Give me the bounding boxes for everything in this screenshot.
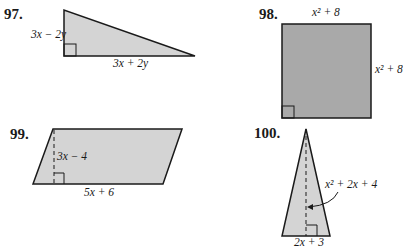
height-label-99: 3x − 4 [57, 150, 87, 162]
problem-number-100: 100. [254, 125, 280, 142]
right-triangle-97 [64, 10, 195, 56]
base-label-100: 2x + 3 [294, 236, 324, 248]
base-label-99: 5x + 6 [84, 186, 114, 198]
parallelogram-99 [33, 129, 182, 184]
problem-number-98: 98. [259, 6, 278, 23]
square-98 [282, 24, 371, 118]
problem-number-97: 97. [4, 6, 23, 23]
base-label-97: 3x + 2y [113, 57, 148, 69]
top-label-98: x² + 8 [312, 6, 340, 18]
right-label-98: x² + 8 [375, 63, 403, 75]
height-label-100: x² + 2x + 4 [325, 178, 377, 190]
problem-number-99: 99. [10, 126, 29, 143]
height-label-97: 3x − 2y [31, 28, 66, 40]
